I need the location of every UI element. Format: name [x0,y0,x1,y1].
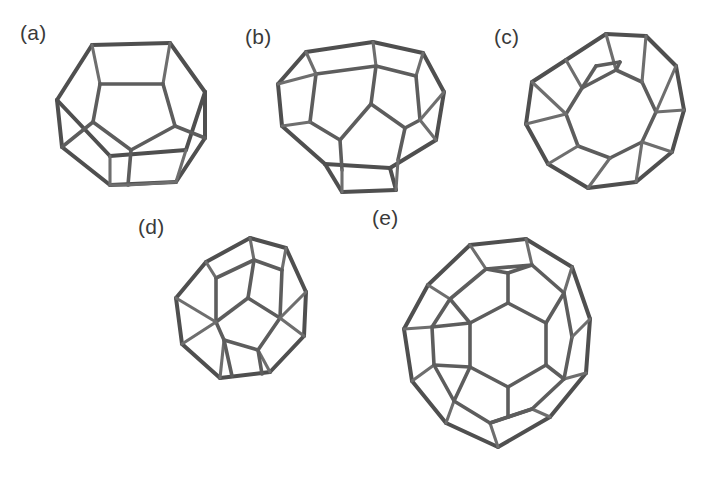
cage-diagram-d [120,200,350,410]
cage-diagram-b [230,0,480,210]
cage-edges-c [526,34,684,188]
cage-diagram-e [350,195,630,470]
cage-edges-e [404,239,590,447]
figure-canvas: (a) [0,0,711,478]
cage-edges-d [176,238,306,378]
cage-edges-b [278,42,444,192]
cage-edges-a [57,43,205,185]
cage-diagram-c [470,0,711,215]
cage-diagram-a [0,0,240,210]
